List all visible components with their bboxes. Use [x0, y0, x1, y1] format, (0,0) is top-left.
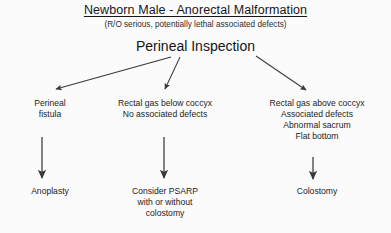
node-colostomy-line1: Colostomy	[243, 186, 391, 197]
node-rectal-gas-above-coccyx-line2: Associated defects	[243, 109, 391, 120]
node-rectal-gas-above-coccyx-line1: Rectal gas above coccyx	[243, 98, 391, 109]
node-consider-psarp-line3: colostomy	[95, 208, 235, 219]
node-rectal-gas-below-coccyx: Rectal gas below coccyx No associated de…	[95, 98, 235, 120]
node-perineal-fistula-line2: fistula	[2, 109, 98, 120]
flowchart-canvas: Newborn Male - Anorectal Malformation (R…	[0, 0, 391, 233]
node-anoplasty: Anoplasty	[2, 186, 98, 197]
page-title: Newborn Male - Anorectal Malformation	[0, 2, 391, 18]
page-subtitle: (R/O serious, potentially lethal associa…	[0, 20, 391, 31]
node-perineal-inspection: Perineal Inspection	[0, 38, 391, 56]
node-anoplasty-line1: Anoplasty	[2, 186, 98, 197]
node-rectal-gas-below-coccyx-line1: Rectal gas below coccyx	[95, 98, 235, 109]
node-perineal-fistula: Perineal fistula	[2, 98, 98, 120]
node-rectal-gas-below-coccyx-line2: No associated defects	[95, 109, 235, 120]
node-consider-psarp-line2: with or without	[95, 197, 235, 208]
node-colostomy: Colostomy	[243, 186, 391, 197]
node-consider-psarp: Consider PSARP with or without colostomy	[95, 186, 235, 219]
arrow-root-to-perineal-fistula	[56, 57, 171, 89]
node-rectal-gas-above-coccyx-line3: Abnormal sacrum	[243, 120, 391, 131]
node-rectal-gas-above-coccyx-line4: Flat bottom	[243, 131, 391, 142]
node-rectal-gas-above-coccyx: Rectal gas above coccyx Associated defec…	[243, 98, 391, 142]
arrow-root-to-rectal-gas-above	[256, 56, 306, 90]
node-perineal-fistula-line1: Perineal	[2, 98, 98, 109]
node-consider-psarp-line1: Consider PSARP	[95, 186, 235, 197]
page-title-text: Newborn Male - Anorectal Malformation	[84, 3, 307, 17]
arrow-root-to-rectal-gas-below	[165, 57, 180, 89]
